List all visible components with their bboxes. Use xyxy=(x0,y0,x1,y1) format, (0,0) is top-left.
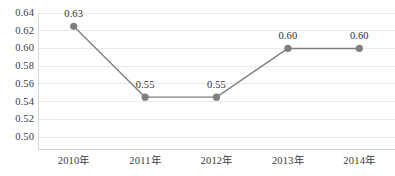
x-axis-tick-label: 2012年 xyxy=(201,156,233,167)
x-axis-tick-label: 2014年 xyxy=(343,156,375,167)
x-axis-tick-labels: 2010年2011年2012年2013年2014年 xyxy=(38,152,395,176)
data-point-marker xyxy=(284,45,291,52)
data-point-marker xyxy=(142,94,149,101)
y-axis-tick-label: 0.62 xyxy=(4,26,34,37)
data-point-label: 0.55 xyxy=(207,80,226,91)
plot-area: 0.630.550.550.600.60 xyxy=(38,0,395,150)
data-point-label: 0.60 xyxy=(279,31,298,42)
data-point-marker xyxy=(70,23,77,30)
data-point-label: 0.60 xyxy=(350,31,369,42)
y-axis-tick-label: 0.54 xyxy=(4,97,34,108)
line-chart: 0.640.620.600.580.560.540.520.50 0.630.5… xyxy=(0,0,395,176)
data-series xyxy=(38,0,395,150)
y-axis-tick-label: 0.56 xyxy=(4,79,34,90)
x-axis-tick-label: 2011年 xyxy=(129,156,161,167)
y-axis-tick-label: 0.60 xyxy=(4,43,34,54)
data-point-label: 0.55 xyxy=(136,80,155,91)
y-axis-tick-label: 0.52 xyxy=(4,114,34,125)
x-axis-tick-label: 2013年 xyxy=(272,156,304,167)
y-axis-tick-labels: 0.640.620.600.580.560.540.520.50 xyxy=(0,0,34,176)
y-axis-tick-label: 0.58 xyxy=(4,61,34,72)
data-point-marker xyxy=(356,45,363,52)
data-point-label: 0.63 xyxy=(64,9,83,20)
data-point-marker xyxy=(213,94,220,101)
x-axis-tick-label: 2010年 xyxy=(58,156,90,167)
y-axis-tick-label: 0.50 xyxy=(4,132,34,143)
y-axis-tick-label: 0.64 xyxy=(4,8,34,19)
